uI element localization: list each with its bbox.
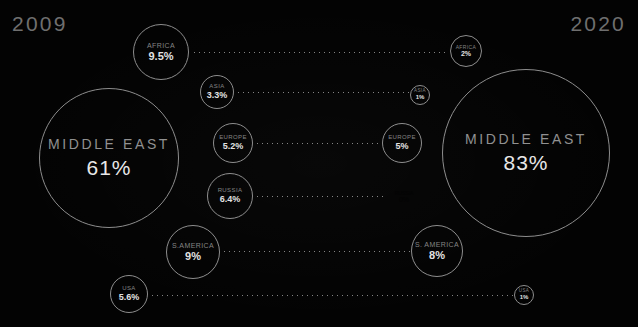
connector-africa (192, 52, 449, 53)
bubble-russia-2020[interactable]: RUSSIA0% (381, 187, 427, 205)
bubble-europe-2009[interactable]: EUROPE5.2% (213, 123, 253, 163)
middle-east-2009-value: 61% (86, 156, 131, 179)
europe-2020-value: 5% (395, 142, 408, 152)
year-label-left: 2009 (12, 12, 68, 36)
usa-2020-value: 1% (520, 294, 529, 301)
middle-east-2020-label: MIDDLE EAST (465, 132, 587, 147)
russia-2009-label: RUSSIA (218, 187, 243, 193)
connector-usa (150, 295, 513, 296)
africa-2020-value: 2% (461, 50, 471, 58)
africa-2009-label: AFRICA (147, 42, 175, 49)
bubble-africa-2009[interactable]: AFRICA9.5% (133, 24, 189, 80)
bubble-s-america-2009[interactable]: S.AMERICA9% (166, 225, 220, 279)
middle-east-2009-label: MIDDLE EAST (48, 137, 170, 152)
connector-russia (255, 196, 385, 197)
connector-s-america (222, 251, 410, 252)
s-america-2020-label: S. AMERICA (415, 241, 459, 248)
asia-2020-value: 1% (416, 94, 425, 101)
bubble-usa-2020[interactable]: USA1% (514, 285, 534, 305)
europe-2009-label: EUROPE (219, 134, 247, 140)
bubble-russia-2009[interactable]: RUSSIA6.4% (207, 173, 253, 219)
bubble-usa-2009[interactable]: USA5.6% (110, 275, 148, 313)
asia-2009-value: 3.3% (207, 91, 228, 101)
bubble-asia-2020[interactable]: ASIA1% (410, 85, 430, 105)
middle-east-2020-value: 83% (503, 151, 548, 174)
connector-europe (255, 143, 381, 144)
asia-2009-label: ASIA (209, 83, 224, 89)
bubble-s-america-2020[interactable]: S. AMERICA8% (411, 225, 463, 277)
bubble-middle-east-2020[interactable]: MIDDLE EAST83% (442, 69, 610, 237)
europe-2020-label: EUROPE (388, 134, 416, 140)
bubble-europe-2020[interactable]: EUROPE5% (382, 123, 422, 163)
bubble-asia-2009[interactable]: ASIA3.3% (200, 75, 234, 109)
year-label-right: 2020 (570, 12, 626, 36)
africa-2009-value: 9.5% (148, 50, 173, 62)
europe-2009-value: 5.2% (223, 142, 244, 152)
s-america-2009-label: S.AMERICA (172, 242, 214, 249)
russia-2009-value: 6.4% (220, 195, 241, 205)
bubble-africa-2020[interactable]: AFRICA2% (450, 35, 482, 67)
usa-2009-value: 5.6% (119, 293, 140, 303)
s-america-2020-value: 8% (429, 249, 445, 261)
s-america-2009-value: 9% (185, 250, 201, 262)
russia-2020-value: 0% (399, 196, 409, 203)
bubble-comparison-chart: 2009 2020 AFRICA9.5%ASIA3.3%EUROPE5.2%RU… (0, 0, 638, 327)
usa-2009-label: USA (122, 285, 136, 291)
bubble-middle-east-2009[interactable]: MIDDLE EAST61% (39, 88, 179, 228)
connector-asia (236, 92, 409, 93)
